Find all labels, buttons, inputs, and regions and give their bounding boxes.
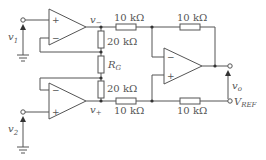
resistor-10k-bottom-input: [116, 98, 136, 104]
resistor-20k-upper: [98, 31, 104, 48]
label-r-20k-upper: 20 kΩ: [107, 36, 137, 47]
arrow-vo-icon: [225, 70, 231, 76]
resistor-10k-feedback: [180, 24, 200, 30]
junction-lower-mid: [99, 76, 102, 79]
terminal-vo: [228, 64, 232, 68]
label-v2: v2: [8, 123, 19, 137]
circuit-diagram: + − − + − + v1 v2 v− v+ vo VREF 10 kΩ 10…: [0, 0, 266, 160]
junction-upper-mid: [99, 50, 102, 53]
opamp-2-plus: +: [52, 107, 60, 117]
resistor-rg: [98, 56, 104, 73]
resistor-10k-ref: [180, 98, 200, 104]
label-rg: RG: [107, 59, 122, 72]
opamp-2-minus: −: [52, 85, 60, 95]
label-r-feedback: 10 kΩ: [177, 12, 207, 23]
label-v1: v1: [8, 31, 18, 45]
label-r-ref: 10 kΩ: [177, 105, 207, 116]
label-vo: vo: [232, 80, 242, 93]
arrow-v1-icon: [20, 24, 26, 30]
arrow-v2-icon: [20, 116, 26, 122]
opamp-1-plus: +: [52, 15, 60, 25]
junction-v-plus: [99, 99, 102, 102]
opamp-3-minus: −: [167, 52, 175, 62]
resistor-20k-lower: [98, 81, 104, 98]
terminal-v2: [21, 110, 25, 114]
label-r-bottom-input: 10 kΩ: [114, 105, 144, 116]
junction-output: [213, 64, 216, 67]
label-r-top-input: 10 kΩ: [114, 12, 144, 23]
junction-noninverting: [150, 99, 153, 102]
label-r-20k-lower: 20 kΩ: [107, 83, 137, 94]
terminal-vref: [228, 99, 232, 103]
terminal-v1: [21, 18, 25, 22]
opamp-3-plus: +: [167, 71, 175, 81]
label-v-plus: v+: [90, 104, 102, 117]
junction-inverting: [150, 25, 153, 28]
label-v-minus: v−: [90, 14, 102, 27]
label-vref: VREF: [234, 96, 258, 109]
resistor-10k-top-input: [116, 24, 136, 30]
opamp-1-minus: −: [52, 33, 60, 43]
